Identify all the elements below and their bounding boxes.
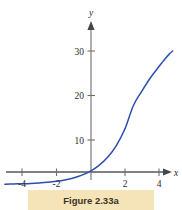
figure-caption-band: Figure 2.33a [28, 190, 154, 210]
x-tick-label-neg4: -4 [18, 179, 26, 189]
y-tick-label-20: 20 [75, 91, 85, 101]
x-tick-label-2: 2 [123, 179, 128, 189]
chart-svg: -4 -2 2 4 10 20 30 y x [0, 0, 182, 190]
y-tick-label-30: 30 [75, 47, 85, 57]
y-axis-arrow-icon [87, 21, 94, 30]
x-axis-arrow-icon [163, 168, 172, 175]
figure-container: -4 -2 2 4 10 20 30 y x Figure 2.33a [0, 0, 182, 210]
figure-caption-text: Figure 2.33a [63, 190, 118, 206]
x-tick-label-4: 4 [157, 179, 162, 189]
y-axis-label: y [88, 8, 94, 18]
plot-area: -4 -2 2 4 10 20 30 y x [0, 0, 182, 190]
x-axis-label: x [173, 168, 179, 178]
x-tick-label-neg2: -2 [53, 179, 61, 189]
y-tick-label-10: 10 [75, 136, 85, 146]
exponential-curve [5, 51, 173, 184]
